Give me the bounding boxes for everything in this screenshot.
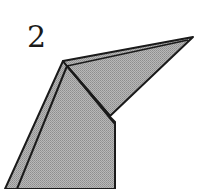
origami-figure (0, 0, 199, 189)
origami-diagram: 2 (0, 0, 199, 189)
